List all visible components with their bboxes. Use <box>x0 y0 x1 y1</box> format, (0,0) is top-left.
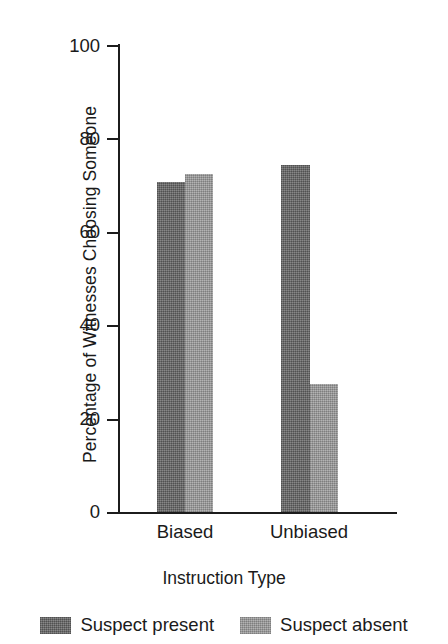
bar-biased-suspect-present[interactable] <box>157 182 185 512</box>
chart-legend: Suspect present Suspect absent <box>0 614 448 636</box>
y-tick-label-100: 100 <box>42 37 100 56</box>
legend-swatch-icon-suspect-present <box>40 617 71 634</box>
y-tick-label-80: 80 <box>42 130 100 149</box>
y-tick-label-60: 60 <box>42 223 100 242</box>
plot-area <box>118 44 397 514</box>
bar-biased-suspect-absent[interactable] <box>185 174 213 512</box>
bar-chart-figure: Percentage of Witnesses Choosing Someone… <box>0 0 448 644</box>
legend-label-suspect-absent: Suspect absent <box>280 614 408 636</box>
y-tick-label-20: 20 <box>42 410 100 429</box>
legend-entry-suspect-absent[interactable]: Suspect absent <box>240 614 408 636</box>
x-axis-title: Instruction Type <box>0 568 448 589</box>
bar-unbiased-suspect-present[interactable] <box>281 165 310 512</box>
x-tick-label-unbiased: Unbiased <box>234 521 384 543</box>
y-tick-label-40: 40 <box>42 316 100 335</box>
bar-unbiased-suspect-absent[interactable] <box>310 384 338 512</box>
y-tick-label-0: 0 <box>42 503 100 522</box>
legend-entry-suspect-present[interactable]: Suspect present <box>40 614 214 636</box>
legend-label-suspect-present: Suspect present <box>80 614 214 636</box>
y-axis-title: Percentage of Witnesses Choosing Someone <box>80 50 101 520</box>
legend-swatch-icon-suspect-absent <box>240 617 271 634</box>
